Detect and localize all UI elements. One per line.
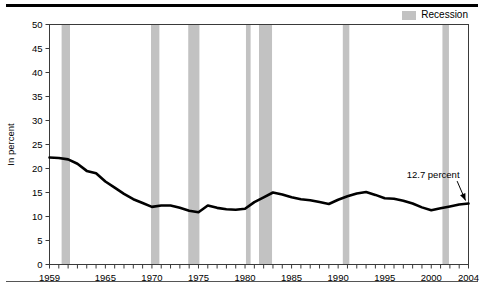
y-tick-label: 35 — [32, 91, 43, 102]
figure-container: Recession 05101520253035404550In percent… — [0, 0, 484, 289]
recession-band — [246, 25, 251, 265]
y-tick-label: 20 — [32, 163, 43, 174]
line-chart: 05101520253035404550In percent1959196519… — [0, 0, 484, 289]
recession-band — [62, 25, 70, 265]
annotation-arrowhead — [460, 193, 465, 201]
y-tick-label: 0 — [37, 259, 42, 270]
recession-band — [343, 25, 350, 265]
recession-band — [151, 25, 159, 265]
y-tick-label: 10 — [32, 211, 43, 222]
recession-band — [442, 25, 449, 265]
y-tick-label: 5 — [37, 235, 42, 246]
y-axis-group: 05101520253035404550 — [32, 19, 50, 270]
x-axis-group: 1959196519701975198019851990199520002004 — [39, 265, 479, 283]
recession-band — [188, 25, 199, 265]
y-tick-label: 50 — [32, 19, 43, 30]
y-tick-label: 45 — [32, 43, 43, 54]
annotation-label: 12.7 percent — [407, 169, 460, 180]
y-tick-label: 30 — [32, 115, 43, 126]
y-tick-label: 25 — [32, 139, 43, 150]
recession-bands-group — [62, 25, 449, 265]
recession-band — [259, 25, 272, 265]
y-axis-title: In percent — [5, 123, 16, 166]
y-tick-label: 40 — [32, 67, 43, 78]
y-tick-label: 15 — [32, 187, 43, 198]
bottom-rule-divider — [6, 281, 478, 282]
